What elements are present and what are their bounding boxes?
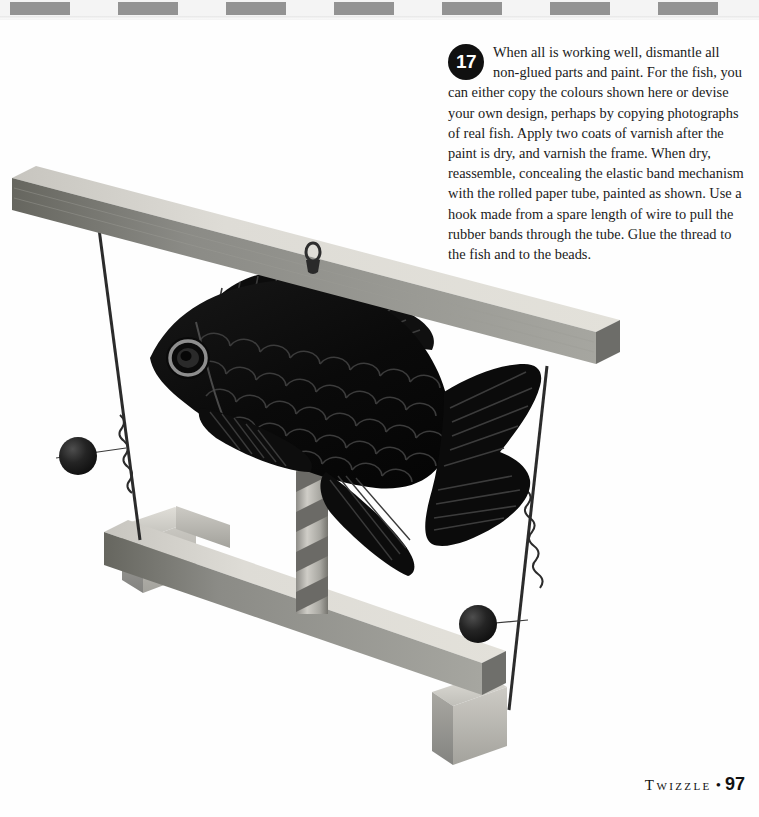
footer-bullet: • [716,777,721,793]
fish-eye [166,337,210,379]
right-bead [459,605,497,643]
book-page: 17 When all is working well, dismantle a… [0,0,759,817]
rule-dash [226,2,286,15]
project-photo [0,20,470,780]
page-number: 97 [725,774,745,794]
checkered-rule [0,0,759,20]
rule-dash [118,2,178,15]
rule-dash [442,2,502,15]
rule-dash [658,2,718,15]
page-footer: Twizzle•97 [645,774,745,795]
fish-anal-fin [320,472,414,576]
rule-dash [334,2,394,15]
left-bead [59,437,97,475]
rule-dash [550,2,610,15]
left-wire [96,206,140,540]
book-title: Twizzle [645,777,712,793]
rule-underline [0,16,759,19]
rule-dash [10,2,70,15]
